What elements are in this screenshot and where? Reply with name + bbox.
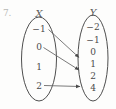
- domain-element-3: 2: [29, 81, 49, 91]
- domain-element-0: −1: [29, 24, 49, 34]
- domain-set-label: X: [31, 8, 47, 19]
- codomain-element-0: −2: [83, 22, 103, 32]
- arrow-2-to-4: [44, 86, 80, 87]
- mapping-diagram-screenshot: 7. X Y −1 0 1 2 −2 −1 0 1 2 4: [0, 0, 116, 109]
- codomain-element-5: 4: [83, 83, 103, 93]
- codomain-element-4: 2: [83, 71, 103, 81]
- codomain-element-1: −1: [83, 35, 103, 45]
- domain-element-1: 0: [29, 42, 49, 52]
- codomain-element-3: 1: [83, 59, 103, 69]
- domain-element-2: 1: [29, 62, 49, 72]
- codomain-element-2: 0: [83, 47, 103, 57]
- codomain-set-label: Y: [85, 7, 101, 18]
